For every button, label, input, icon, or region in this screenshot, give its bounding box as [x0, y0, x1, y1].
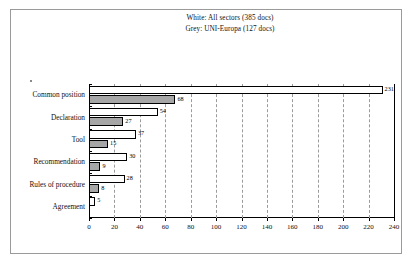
chart-legend: White: All sectors (385 docs) Grey: UNI-…: [120, 13, 340, 35]
bar: [89, 130, 136, 139]
y-axis-labels: Common positionDeclarationToolRecommenda…: [5, 84, 85, 218]
y-axis-tick: [89, 173, 92, 174]
bar-value-label: 231: [385, 85, 394, 92]
bar: [89, 184, 99, 193]
x-axis-tick-label: 100: [204, 223, 228, 231]
y-axis-tick: [89, 84, 92, 85]
bar: [89, 162, 100, 171]
bar: [89, 108, 158, 117]
y-axis-tick: [89, 151, 92, 152]
x-axis-tick: [242, 218, 243, 221]
x-axis-tick: [318, 218, 319, 221]
bar-group: 23168: [89, 84, 394, 106]
y-axis-category-label: Declaration: [5, 113, 85, 122]
x-axis-tick: [191, 218, 192, 221]
bar-value-label: 30: [129, 152, 135, 159]
x-axis-tick-label: 60: [153, 223, 177, 231]
bar-value-label: 27: [125, 117, 131, 124]
plot-area: 23168542737153092885: [89, 84, 394, 218]
x-axis-tick: [216, 218, 217, 221]
x-axis-tick: [140, 218, 141, 221]
bar-value-label: 28: [127, 174, 133, 181]
bar-value-label: 9: [102, 162, 105, 169]
y-axis-tick: [89, 196, 92, 197]
y-axis-category-label: Common position: [5, 90, 85, 99]
x-axis-tick-label: 120: [230, 223, 254, 231]
bar: [89, 175, 125, 184]
x-axis-tick: [343, 218, 344, 221]
bar: [89, 153, 127, 162]
x-axis-tick-label: 240: [382, 223, 406, 231]
x-axis-tick-label: 20: [102, 223, 126, 231]
bar-value-label: 8: [101, 184, 104, 191]
bar-value-label: 15: [110, 139, 116, 146]
y-axis-category-label: Agreement: [5, 202, 85, 211]
y-axis-category-label: Tool: [5, 135, 85, 144]
bar-value-label: 5: [97, 196, 100, 203]
x-axis-tick-label: 40: [128, 223, 152, 231]
bar-value-label: 54: [160, 107, 166, 114]
bar-group: 3715: [89, 129, 394, 151]
y-axis-tick: [89, 129, 92, 130]
y-axis-tick: [89, 218, 92, 219]
bar: [89, 95, 175, 104]
x-axis-tick-label: 80: [179, 223, 203, 231]
x-axis-tick-label: 220: [357, 223, 381, 231]
x-axis-tick-label: 160: [280, 223, 304, 231]
x-axis-tick: [267, 218, 268, 221]
chart-figure: White: All sectors (385 docs) Grey: UNI-…: [0, 0, 413, 265]
x-axis-tick-label: 200: [331, 223, 355, 231]
gridline: [394, 84, 395, 218]
x-axis-tick: [394, 218, 395, 221]
x-axis-tick: [292, 218, 293, 221]
stray-mark: [30, 80, 32, 82]
legend-entry-grey: Grey: UNI-Europa (127 docs): [120, 24, 340, 35]
y-axis-category-label: Recommendation: [5, 157, 85, 166]
bar: [89, 86, 383, 95]
bar: [89, 117, 123, 126]
x-axis-tick-label: 180: [306, 223, 330, 231]
x-axis-tick: [369, 218, 370, 221]
bar-group: 309: [89, 151, 394, 173]
x-axis-tick-label: 140: [255, 223, 279, 231]
bar-value-label: 68: [177, 95, 183, 102]
bar-value-label: 37: [138, 129, 144, 136]
bar: [89, 197, 95, 206]
y-axis-category-label: Rules of procedure: [5, 180, 85, 189]
bar-group: 5: [89, 196, 394, 218]
x-axis-tick-label: 0: [77, 223, 101, 231]
x-axis: 020406080100120140160180200220240: [89, 218, 394, 240]
bar-group: 288: [89, 173, 394, 195]
bar: [89, 140, 108, 149]
x-axis-tick: [165, 218, 166, 221]
y-axis-tick: [89, 106, 92, 107]
x-axis-tick: [114, 218, 115, 221]
legend-entry-white: White: All sectors (385 docs): [120, 13, 340, 24]
bar-group: 5427: [89, 106, 394, 128]
